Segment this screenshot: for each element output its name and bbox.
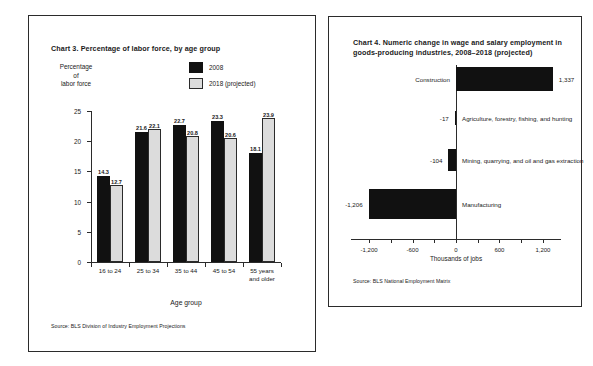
- chart4-x-tick: [499, 240, 500, 243]
- chart3-y-tick: 25: [87, 111, 91, 112]
- chart3-y-tick: 20: [87, 141, 91, 142]
- chart3-bar-value-label: 23.9: [263, 112, 274, 118]
- chart3-bar-value-label: 14.3: [98, 169, 109, 175]
- chart3-bar-value-label: 20.8: [187, 130, 198, 136]
- chart3-y-axis-title-line1: Percentage: [45, 63, 107, 72]
- chart3-plot-area: 0510152025 14.312.716 to 2421.622.125 to…: [91, 111, 281, 263]
- chart4-title-line2: goods-producing industries, 2008–2018 (p…: [353, 48, 563, 58]
- chart3-x-axis-title: Age group: [91, 299, 281, 306]
- chart3-y-tick: 15: [87, 171, 91, 172]
- chart3-bar: 22.1: [148, 129, 161, 262]
- chart3-bar: 12.7: [110, 185, 123, 262]
- chart3-bar-value-label: 22.7: [174, 118, 185, 124]
- chart4-category-label: Mining, quarrying, and oil and gas extra…: [462, 157, 583, 164]
- chart4-zero-line: [456, 65, 457, 240]
- chart4-x-tick: [413, 240, 414, 243]
- chart4-x-minor-tick: [391, 240, 392, 243]
- chart4-value-label: -1,206: [345, 201, 363, 208]
- chart4-category-label: Manufacturing: [462, 201, 501, 208]
- chart4-x-tick: [369, 240, 370, 243]
- legend-label-2008: 2008: [209, 64, 223, 71]
- chart3-bar: 21.6: [135, 132, 148, 262]
- legend-swatch-2018: [189, 78, 203, 89]
- chart3-bar: 23.3: [211, 121, 224, 262]
- chart3-panel: Chart 3. Percentage of labor force, by a…: [28, 15, 316, 352]
- chart3-y-axis-title-line2: of: [45, 72, 107, 81]
- chart3-bar-group: 21.622.125 to 34: [129, 129, 167, 262]
- chart4-value-label: -17: [440, 115, 449, 122]
- chart4-x-tick-label: -600: [407, 247, 419, 253]
- chart3-bar-value-label: 20.6: [225, 132, 236, 138]
- chart4-title-line1: Chart 4. Numeric change in wage and sala…: [353, 38, 563, 48]
- chart4-x-minor-tick: [434, 240, 435, 243]
- chart3-title: Chart 3. Percentage of labor force, by a…: [51, 44, 301, 54]
- chart4-bar: [369, 189, 456, 219]
- chart3-bar: 14.3: [97, 176, 110, 262]
- chart4-x-tick-label: -1,200: [361, 247, 378, 253]
- chart3-y-axis-title-line3: labor force: [45, 80, 107, 89]
- chart3-bar-group: 22.720.835 to 44: [167, 125, 205, 262]
- chart4-x-tick-label: 1,200: [535, 247, 550, 253]
- chart4-x-tick-label: 0: [454, 247, 457, 253]
- chart3-y-axis-title: Percentage of labor force: [45, 63, 107, 89]
- chart3-bar: 18.1: [249, 153, 262, 262]
- chart3-y-tick-label: 10: [74, 198, 81, 205]
- chart4-x-minor-tick: [521, 240, 522, 243]
- chart3-x-axis: [91, 262, 281, 263]
- chart4-x-axis-title: Thousands of jobs: [351, 255, 561, 262]
- legend-item-2018: 2018 (projected): [189, 78, 256, 89]
- legend-item-2008: 2008: [189, 62, 256, 73]
- chart4-value-label: 1,337: [559, 76, 574, 83]
- chart3-bar: 22.7: [173, 125, 186, 262]
- chart3-x-tick-label: 55 yearsand older: [240, 267, 284, 283]
- chart4-category-label: Agriculture, forestry, fishing, and hunt…: [462, 115, 572, 122]
- chart4-category-label: Construction: [415, 76, 450, 83]
- chart3-bar: 23.9: [262, 118, 275, 262]
- chart3-bar-value-label: 21.6: [136, 125, 147, 131]
- chart3-legend: 2008 2018 (projected): [189, 62, 256, 94]
- chart4-x-minor-tick: [478, 240, 479, 243]
- chart4-bar: [448, 149, 456, 171]
- chart3-bar-group: 23.320.645 to 54: [205, 121, 243, 262]
- chart3-y-tick-label: 5: [77, 228, 81, 235]
- chart3-source: Source: BLS Division of Industry Employm…: [51, 323, 186, 329]
- chart3-bar-group: 18.123.955 yearsand older: [243, 118, 281, 262]
- chart4-value-label: -104: [430, 157, 442, 164]
- chart4-plot-area: -1,200-60006001,200 Construction1,337Agr…: [351, 65, 561, 240]
- chart4-source: Source: BLS National Employment Matrix: [353, 278, 450, 284]
- chart3-bar-value-label: 18.1: [250, 146, 261, 152]
- chart4-panel: Chart 4. Numeric change in wage and sala…: [328, 16, 582, 307]
- chart3-bar: 20.6: [224, 138, 237, 262]
- chart3-bar-value-label: 12.7: [111, 179, 122, 185]
- chart4-bar: [456, 67, 553, 91]
- chart4-x-tick: [456, 240, 457, 243]
- chart3-y-tick-label: 15: [74, 168, 81, 175]
- chart3-bar-group: 14.312.716 to 24: [91, 176, 129, 262]
- chart3-y-tick-label: 20: [74, 138, 81, 145]
- chart4-x-tick-label: 600: [494, 247, 504, 253]
- chart4-title: Chart 4. Numeric change in wage and sala…: [353, 38, 563, 59]
- chart4-bar: [455, 111, 457, 125]
- legend-label-2018: 2018 (projected): [209, 80, 256, 87]
- chart4-x-tick: [543, 240, 544, 243]
- legend-swatch-2008: [189, 62, 203, 73]
- chart3-bar: 20.8: [186, 136, 199, 262]
- chart3-x-tick-label-line: and older: [240, 275, 284, 283]
- chart3-y-tick-label: 0: [77, 259, 81, 266]
- chart3-bar-value-label: 22.1: [149, 123, 160, 129]
- chart3-x-tick-label-line: 55 years: [240, 267, 284, 275]
- chart3-bar-value-label: 23.3: [212, 114, 223, 120]
- chart3-y-tick-label: 25: [74, 108, 81, 115]
